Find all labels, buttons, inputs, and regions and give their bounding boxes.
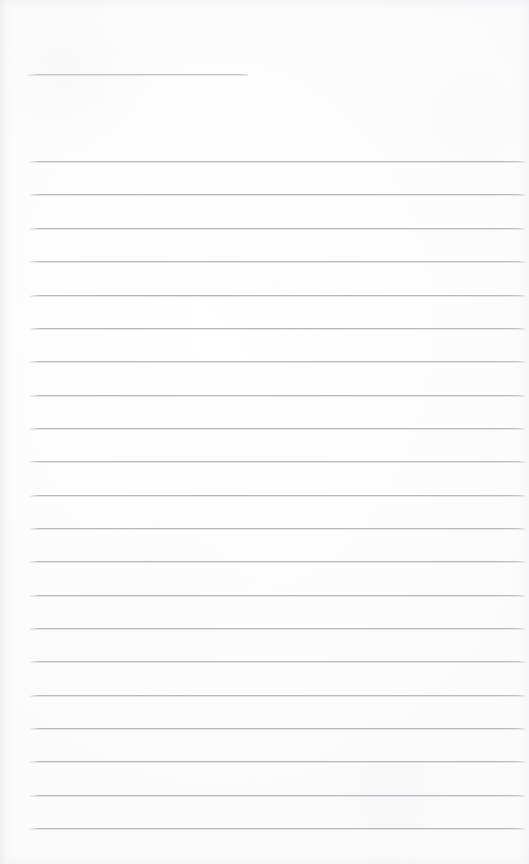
- ruled-line: [30, 761, 525, 762]
- ruled-line: [30, 395, 525, 396]
- ruled-line: [30, 561, 525, 562]
- ruled-line: [30, 595, 525, 596]
- ruled-line: [30, 795, 525, 796]
- lined-paper-page: [0, 0, 529, 864]
- ruled-line: [30, 661, 525, 662]
- ruled-line: [30, 361, 525, 362]
- ruled-line: [30, 295, 525, 296]
- ruled-line: [30, 328, 525, 329]
- ruled-line: [30, 228, 525, 229]
- ruled-line: [30, 728, 525, 729]
- header-rule: [28, 74, 248, 75]
- ruled-line: [30, 695, 525, 696]
- paper-background: [0, 0, 529, 864]
- ruled-line: [30, 194, 525, 195]
- ruled-line: [30, 261, 525, 262]
- ruled-line: [30, 428, 525, 429]
- ruled-line: [30, 161, 525, 162]
- ruled-line: [30, 628, 525, 629]
- ruled-line: [30, 495, 525, 496]
- ruled-line: [30, 528, 525, 529]
- ruled-line: [30, 828, 525, 829]
- ruled-line: [30, 461, 525, 462]
